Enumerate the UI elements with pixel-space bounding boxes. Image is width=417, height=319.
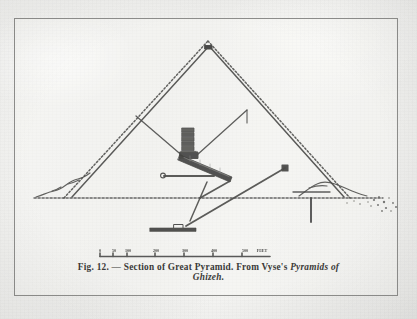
scale-tick-label: 500 bbox=[242, 248, 248, 253]
present-face bbox=[72, 46, 344, 197]
figure-caption-source-italic-2: Ghizeh. bbox=[193, 272, 224, 282]
casing-line bbox=[64, 41, 350, 198]
figure-caption-source-italic: Pyramids of bbox=[290, 262, 339, 272]
figure-caption-line-1: Fig. 12. — Section of Great Pyramid. Fro… bbox=[0, 262, 417, 272]
air-channel-north bbox=[136, 116, 185, 158]
scale-bar-labels: 0 50 100 200 300 400 500 FEET bbox=[99, 248, 268, 253]
scale-tick-label: 100 bbox=[125, 248, 131, 253]
scale-tick-label: 0 bbox=[99, 248, 101, 253]
figure-caption-line-2: Ghizeh. bbox=[0, 272, 417, 282]
entrance bbox=[282, 165, 288, 171]
scale-tick-label: 300 bbox=[182, 248, 188, 253]
subterranean-chamber bbox=[150, 225, 196, 232]
scale-tick-label: 50 bbox=[112, 248, 116, 253]
figure-caption-text: Fig. 12. — Section of Great Pyramid. Fro… bbox=[78, 262, 290, 272]
scale-unit-label: FEET bbox=[257, 248, 268, 253]
scale-bar bbox=[100, 253, 270, 257]
scale-tick-label: 200 bbox=[153, 248, 159, 253]
grand-gallery bbox=[178, 155, 232, 182]
apex bbox=[205, 46, 212, 50]
relieving-chambers bbox=[181, 128, 196, 151]
scanned-page: 0 50 100 200 300 400 500 FEET Fig. 12. —… bbox=[0, 0, 417, 319]
air-channel-south bbox=[197, 110, 247, 155]
scale-tick-label: 400 bbox=[211, 248, 217, 253]
